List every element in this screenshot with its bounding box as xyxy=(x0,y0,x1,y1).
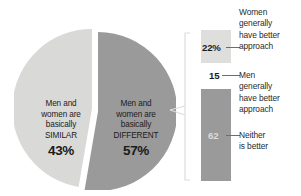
leader-line-women xyxy=(226,47,240,48)
pie-label-similar-line3: basically xyxy=(46,120,77,129)
bar-label-women: Women generally have better approach xyxy=(239,7,299,53)
pie-label-different-line2: women are xyxy=(116,110,156,119)
bar-label-men-line4: approach xyxy=(239,104,273,114)
pie-label-different-line1: Men and xyxy=(120,99,151,108)
pie-value-similar: 43% xyxy=(26,143,96,159)
pie-value-different: 57% xyxy=(98,143,174,159)
bar-label-neither: Neither is better xyxy=(239,130,299,153)
leader-line-neither xyxy=(226,135,240,136)
bar-value-women: 22% xyxy=(202,42,221,53)
pie-label-similar-line1: Men and xyxy=(45,99,76,108)
bar-value-neither: 62 xyxy=(208,130,218,141)
bar-label-men-line1: Men xyxy=(239,70,255,80)
bar-label-women-line2: generally xyxy=(239,18,272,28)
bar-label-neither-line1: Neither xyxy=(239,130,265,140)
chart-figure: Men and women are basically SIMILAR 43% … xyxy=(0,0,301,196)
bar-label-men-line3: have better xyxy=(239,93,280,103)
pie-label-different-line4: DIFFERENT xyxy=(113,131,158,140)
bar-value-men: 15 xyxy=(209,70,219,81)
bar-label-men-line2: generally xyxy=(239,81,272,91)
pie-label-similar-line4: SIMILAR xyxy=(45,131,77,140)
bar-label-men: Men generally have better approach xyxy=(239,70,299,116)
bar-label-women-line4: approach xyxy=(239,41,273,51)
pie-chart: Men and women are basically SIMILAR 43% … xyxy=(14,27,176,190)
bar-label-neither-line2: is better xyxy=(239,141,268,151)
pie-label-similar: Men and women are basically SIMILAR 43% xyxy=(26,99,96,159)
bar-label-women-line3: have better xyxy=(239,30,280,40)
pie-label-similar-line2: women are xyxy=(41,110,81,119)
leader-line-men xyxy=(222,75,240,76)
pie-label-different-line3: basically xyxy=(121,120,152,129)
pie-label-different: Men and women are basically DIFFERENT 57… xyxy=(98,99,174,159)
bar-label-women-line1: Women xyxy=(239,7,267,17)
